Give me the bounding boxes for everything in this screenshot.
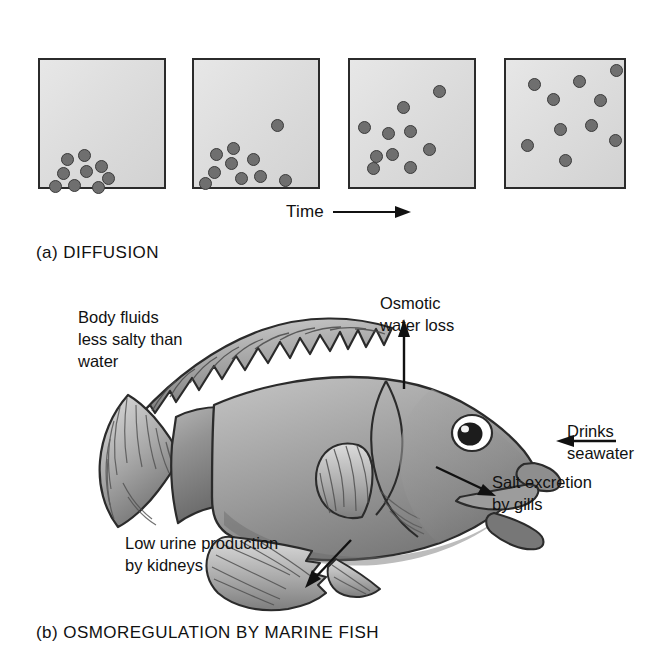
diffusion-particle (78, 149, 91, 162)
diffusion-particle (225, 157, 238, 170)
diffusion-particle (433, 85, 446, 98)
diffusion-box-2 (192, 58, 320, 189)
callout-drinks-seawater: Drinks seawater (567, 421, 634, 465)
diffusion-particle (585, 119, 598, 132)
diffusion-particle (199, 177, 212, 190)
fish-eye (452, 415, 492, 451)
diffusion-particle (382, 127, 395, 140)
diffusion-particle (610, 64, 623, 77)
arrow-right-icon (333, 205, 411, 219)
caudal-fin (100, 395, 180, 527)
diffusion-particle (397, 101, 410, 114)
diffusion-particle (68, 179, 81, 192)
diffusion-particle (271, 119, 284, 132)
diffusion-particle (61, 153, 74, 166)
panel-b-caption: (b) OSMOREGULATION BY MARINE FISH (36, 623, 379, 643)
diffusion-particle (547, 93, 560, 106)
diffusion-particle (279, 174, 292, 187)
diffusion-particle (554, 123, 567, 136)
figure-root: Time (a) DIFFUSION (0, 0, 659, 670)
diffusion-particle (57, 167, 70, 180)
diffusion-particle (573, 75, 586, 88)
diffusion-panel: Time (a) DIFFUSION (0, 0, 659, 285)
diffusion-particle (423, 143, 436, 156)
diffusion-box-3 (348, 58, 476, 189)
diffusion-particle (358, 121, 371, 134)
diffusion-particle (80, 165, 93, 178)
diffusion-particle (528, 78, 541, 91)
diffusion-particle (235, 172, 248, 185)
diffusion-particle (49, 180, 62, 193)
diffusion-particle (521, 139, 534, 152)
diffusion-particle (227, 142, 240, 155)
diffusion-particle (559, 154, 572, 167)
diffusion-box-4 (504, 58, 626, 189)
diffusion-particle (404, 125, 417, 138)
diffusion-box-1 (38, 58, 166, 189)
diffusion-particle (609, 134, 622, 147)
diffusion-particle (92, 181, 105, 194)
diffusion-particle (210, 148, 223, 161)
diffusion-particle (247, 153, 260, 166)
diffusion-particle (594, 94, 607, 107)
diffusion-particle (208, 166, 221, 179)
callout-body-fluids: Body fluids less salty than water (78, 307, 183, 373)
diffusion-particle (95, 160, 108, 173)
diffusion-particle (386, 148, 399, 161)
callout-osmotic-water-loss: Osmotic water loss (380, 293, 454, 337)
diffusion-particle (404, 161, 417, 174)
diffusion-particle (254, 170, 267, 183)
osmoregulation-panel: Body fluids less salty than water Osmoti… (0, 285, 659, 670)
diffusion-particle (367, 162, 380, 175)
time-axis: Time (286, 202, 411, 222)
time-axis-label: Time (286, 202, 324, 222)
callout-salt-excretion-by-gills: Salt excretion by gills (492, 472, 592, 516)
panel-a-caption: (a) DIFFUSION (36, 243, 159, 263)
callout-low-urine-production: Low urine production by kidneys (125, 533, 278, 577)
